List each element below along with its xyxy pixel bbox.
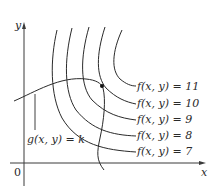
tangent-point [100, 84, 104, 88]
level-label-f-8: f(x, y) = 8 [137, 130, 192, 141]
level-label-f-7: f(x, y) = 7 [137, 146, 192, 157]
constraint-label: g(x, y) = k [27, 134, 85, 145]
y-axis-arrow-icon [22, 22, 26, 29]
x-axis-label: x [201, 167, 207, 178]
lagrange-multiplier-diagram [0, 0, 214, 186]
level-curve-f-8 [66, 28, 136, 136]
x-axis-arrow-icon [199, 161, 206, 165]
level-curve-f-9 [83, 27, 136, 120]
level-label-f-10: f(x, y) = 10 [137, 98, 199, 109]
level-label-f-9: f(x, y) = 9 [137, 114, 192, 125]
level-label-f-11: f(x, y) = 11 [137, 81, 199, 92]
level-curve-f-11 [114, 30, 136, 86]
origin-label: 0 [14, 167, 21, 178]
y-axis-label: y [15, 20, 21, 31]
